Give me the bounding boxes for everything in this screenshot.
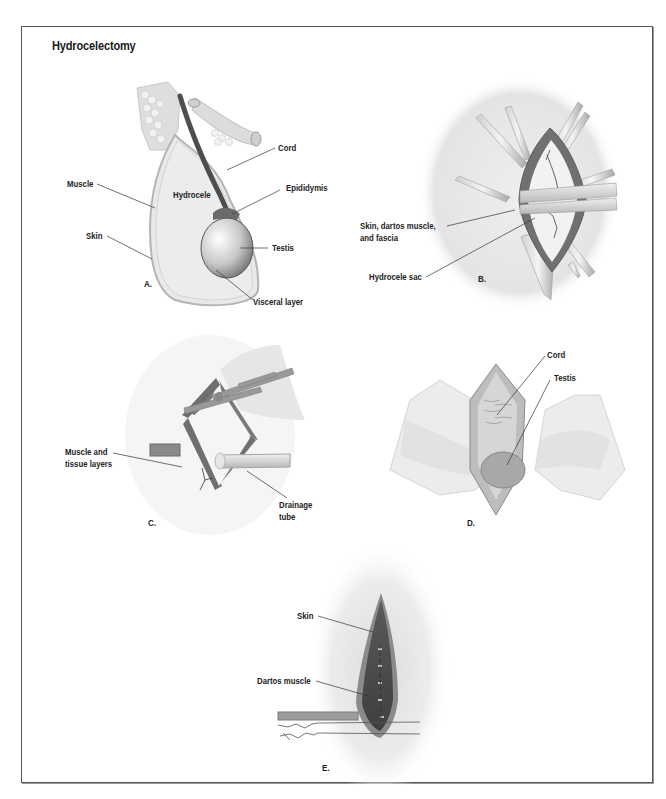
panel-b-illustration xyxy=(419,76,619,310)
label-skin-dartos-fascia-2: and fascia xyxy=(360,232,398,244)
label-hydrocele-sac: Hydrocele sac xyxy=(369,271,422,283)
label-muscle-tissue-1: Muscle and xyxy=(65,446,107,458)
panel-letter-a: A. xyxy=(144,278,152,289)
panel-letter-b: B. xyxy=(478,273,486,284)
label-drainage-tube-1: Drainage xyxy=(279,499,312,511)
label-skin-dartos-fascia-1: Skin, dartos muscle, xyxy=(360,220,436,232)
label-testis-d: Testis xyxy=(554,372,576,384)
panel-c-illustration xyxy=(113,335,305,535)
panel-letter-c: C. xyxy=(148,517,156,528)
label-cord-a: Cord xyxy=(278,142,296,154)
panel-letter-d: D. xyxy=(467,517,475,528)
panel-letter-e: E. xyxy=(322,762,330,773)
panel-d-illustration xyxy=(390,356,625,515)
label-drainage-tube-2: tube xyxy=(279,511,295,523)
label-visceral-layer: Visceral layer xyxy=(253,296,303,308)
panel-e-illustration xyxy=(278,542,450,798)
label-skin-e: Skin xyxy=(297,610,313,622)
label-cord-d: Cord xyxy=(547,349,565,361)
label-skin-a: Skin xyxy=(86,230,102,242)
label-hydrocele: Hydrocele xyxy=(173,189,211,201)
label-testis-a: Testis xyxy=(272,242,294,254)
label-dartos-muscle: Dartos muscle xyxy=(257,675,311,687)
label-muscle-tissue-2: tissue layers xyxy=(65,458,112,470)
label-epididymis: Epididymis xyxy=(286,182,328,194)
label-muscle: Muscle xyxy=(67,178,93,190)
illustration-canvas xyxy=(0,0,666,799)
